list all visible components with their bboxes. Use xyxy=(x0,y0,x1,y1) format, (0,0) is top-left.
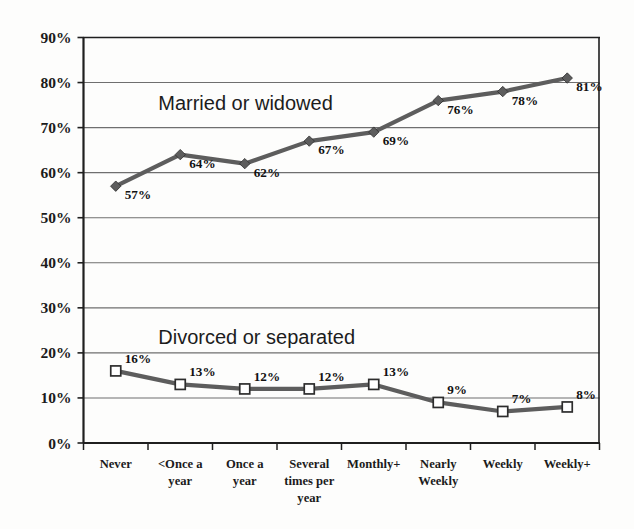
x-axis-tick-label: year xyxy=(233,474,257,488)
x-axis-tick-label: times per xyxy=(284,474,334,488)
y-axis-tick-label: 80% xyxy=(41,74,72,91)
x-axis-tick-label: Once a xyxy=(226,457,264,471)
data-point-label: 69% xyxy=(383,133,409,148)
data-point-label: 7% xyxy=(512,391,532,406)
data-point-marker xyxy=(498,406,508,416)
y-axis-tick-label: 0% xyxy=(48,435,71,452)
data-point-label: 81% xyxy=(576,79,602,94)
x-axis-tick-label: year xyxy=(168,474,192,488)
data-point-label: 12% xyxy=(318,369,344,384)
x-axis-tick-label: year xyxy=(297,491,321,505)
chart-container: 0%10%20%30%40%50%60%70%80%90% Never<Once… xyxy=(0,0,634,529)
x-axis-tick-label: Nearly xyxy=(420,457,457,471)
x-axis-tick-label: Monthly+ xyxy=(347,457,400,471)
data-point-label: 64% xyxy=(189,156,215,171)
y-axis-tick-label: 90% xyxy=(41,29,72,46)
line-chart: 0%10%20%30%40%50%60%70%80%90% Never<Once… xyxy=(0,0,634,529)
data-point-marker xyxy=(433,397,443,407)
series-annotation: Divorced or separated xyxy=(158,326,355,348)
data-point-marker xyxy=(240,384,250,394)
data-point-label: 76% xyxy=(447,102,473,117)
x-axis-tick-label: Weekly xyxy=(483,457,524,471)
data-point-label: 67% xyxy=(318,142,344,157)
data-point-label: 13% xyxy=(383,364,409,379)
x-axis-tick-label: Weekly+ xyxy=(544,457,591,471)
data-point-label: 8% xyxy=(576,387,596,402)
data-point-marker xyxy=(562,402,572,412)
x-axis-tick-label: Several xyxy=(289,457,329,471)
data-point-marker xyxy=(369,379,379,389)
data-point-marker xyxy=(111,366,121,376)
y-axis-tick-label: 50% xyxy=(41,209,72,226)
data-point-label: 13% xyxy=(189,364,215,379)
y-axis-tick-label: 30% xyxy=(41,299,72,316)
y-axis-tick-label: 20% xyxy=(41,344,72,361)
x-axis-tick-label: <Once a xyxy=(158,457,203,471)
data-point-label: 12% xyxy=(254,369,280,384)
y-axis-tick-label: 40% xyxy=(41,254,72,271)
data-point-marker xyxy=(304,384,314,394)
chart-background xyxy=(0,0,634,529)
series-annotation: Married or widowed xyxy=(158,92,333,114)
y-axis-tick-label: 70% xyxy=(41,119,72,136)
data-point-label: 16% xyxy=(125,351,151,366)
data-point-label: 62% xyxy=(254,165,280,180)
y-axis-tick-label: 60% xyxy=(41,164,72,181)
data-point-marker xyxy=(175,379,185,389)
data-point-label: 9% xyxy=(447,382,467,397)
data-point-label: 57% xyxy=(125,187,151,202)
x-axis-tick-label: Weekly xyxy=(418,474,459,488)
x-axis-tick-label: Never xyxy=(100,457,133,471)
data-point-label: 78% xyxy=(512,93,538,108)
y-axis-tick-label: 10% xyxy=(41,389,72,406)
